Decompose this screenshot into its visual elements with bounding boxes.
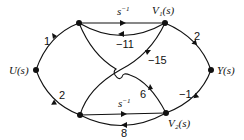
gain-v1-to-n1: −11 [116,38,134,50]
gain-v2-to-n2: 8 [121,127,127,139]
node-label-output: Y(s) [217,64,235,77]
edge-u-to-n1 [36,23,79,70]
node-input [33,67,39,73]
gain-n2-to-v2: s−1 [118,97,131,109]
node-label-v2: V₂(s) [168,117,190,130]
gain-n1-to-v1: s−1 [117,5,130,17]
edge-u-to-n2 [36,70,80,115]
node-n2 [77,112,83,118]
node-n1 [76,20,82,26]
node-v1 [162,20,168,26]
arrow-icon [51,100,58,108]
gain-v1-to-n2: −15 [148,54,167,66]
arrow-icon [52,33,57,39]
node-v2 [163,110,169,116]
gain-v2-to-n1: 6 [140,88,146,100]
gain-v1-to-y: 2 [194,30,200,42]
arrow-icon [121,111,127,117]
arrow-icon [120,20,126,26]
node-label-v1: V₁(s) [152,4,174,17]
node-label-input: U(s) [9,64,29,77]
gain-v2-to-y: −1 [179,88,192,100]
edge-v1-to-y [165,23,211,70]
signal-flow-graph: U(s) V₁(s) Y(s) V₂(s) 1 2 s−1 −11 −15 6 … [0,0,244,140]
gain-u-to-n2: 2 [59,89,65,101]
gain-u-to-n1: 1 [44,35,50,47]
arrow-icon [118,31,124,37]
node-output [208,67,214,73]
